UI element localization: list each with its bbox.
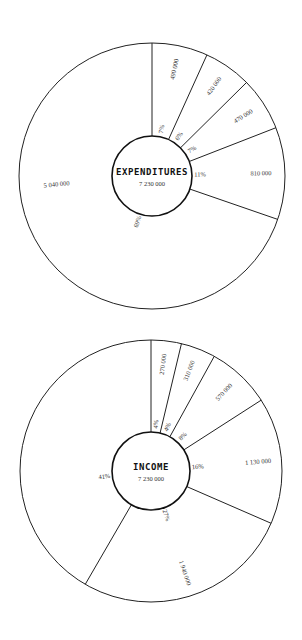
expenditures-chart-title: EXPENDITURES xyxy=(116,167,188,177)
expenditures-total-label: 7 230 000 xyxy=(139,180,165,187)
charts-canvas: 490 0007%420 0006%470 0007%810 00011%5 0… xyxy=(0,0,302,640)
income-percent-label: 4% xyxy=(152,419,160,429)
expenditures-value-label: 810 000 xyxy=(250,169,271,176)
income-percent-label: 16% xyxy=(192,462,205,470)
expenditures-percent-label: 11% xyxy=(194,170,206,177)
income-donut-chart: 270 0004%310 0004%570 0008%1 130 00016%1… xyxy=(20,340,282,602)
expenditures-donut-chart: 490 0007%420 0006%470 0007%810 00011%5 0… xyxy=(19,43,285,309)
income-total-label: 7 230 000 xyxy=(138,475,164,482)
income-chart-title: INCOME xyxy=(133,462,169,472)
